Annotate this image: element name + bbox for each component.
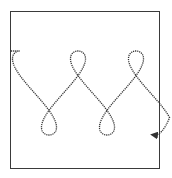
loop-curve-diagram xyxy=(0,0,172,178)
dotted-loop-curve xyxy=(11,51,170,135)
